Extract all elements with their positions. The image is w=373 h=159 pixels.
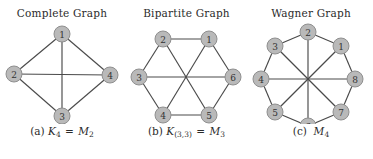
panel-caption-bipartite-graph: (b) K(3,3) = M3 [148,125,225,141]
panel-caption-complete-graph: (a) K4 = M2 [30,125,93,141]
panel-complete-graph: Complete Graph 1 [0,0,124,159]
node-label: 4 [258,75,264,85]
graph-canvas-wagner-graph: 2 1 8 7 6 [249,20,373,124]
panel-title-bipartite-graph: Bipartite Graph [143,7,230,19]
node-label: 5 [272,108,278,118]
node-label: 3 [272,42,278,52]
edge-3-4 [62,75,110,116]
node-label: 2 [305,28,311,38]
caption-equals: = [64,125,75,137]
node-1: 1 [201,31,217,47]
caption-symbol: M [314,125,325,137]
panel-title-complete-graph: Complete Graph [17,7,107,19]
caption-prefix: (c) [293,125,307,137]
panel-caption-wagner-graph: (c) M4 [293,125,329,141]
node-4: 4 [102,67,118,83]
graph-canvas-bipartite-graph: 1 2 3 4 5 [125,20,249,124]
caption-prefix: (b) [148,125,163,137]
graph-figure: Complete Graph 1 [0,0,373,159]
node-label: 3 [136,73,142,83]
node-label: 3 [59,112,65,122]
node-2: 2 [155,31,171,47]
edge-2-4 [14,74,110,75]
node-6: 6 [225,69,241,85]
node-label: 6 [305,122,311,125]
caption-symbol2-sub: 2 [89,130,94,139]
graph-svg-k33: 1 2 3 4 5 [125,20,249,124]
caption-symbol2: M [78,125,89,137]
caption-symbol-sub: 4 [324,130,329,139]
edge-2-3 [14,74,62,116]
graph-canvas-complete-graph: 1 2 3 4 [0,20,124,124]
node-label: 4 [107,71,113,81]
node-2: 2 [300,24,316,40]
node-3: 3 [131,69,147,85]
graph-svg-k4: 1 2 3 4 [0,20,124,124]
edges-k33 [139,39,233,115]
node-4: 4 [155,107,171,123]
panel-title-wagner-graph: Wagner Graph [271,7,351,19]
caption-symbol-sub: 4 [56,130,61,139]
caption-symbol2: M [209,125,220,137]
node-label: 2 [11,70,17,80]
node-5: 5 [201,107,217,123]
caption-symbol: K [48,125,56,137]
node-2: 2 [6,66,22,82]
caption-prefix: (a) [30,125,44,137]
node-3: 3 [54,108,70,124]
node-4: 4 [253,71,269,87]
node-1: 1 [333,38,349,54]
node-label: 1 [338,42,344,52]
node-label: 6 [230,73,236,83]
node-label: 2 [160,35,166,45]
caption-symbol: K [166,125,174,137]
caption-symbol-sub: (3,3) [174,130,192,139]
node-label: 8 [352,75,358,85]
node-6: 6 [300,118,316,124]
caption-equals: = [195,125,206,137]
edge-1-2 [14,34,62,74]
node-5: 5 [267,104,283,120]
panel-bipartite-graph: Bipartite Graph 1 [125,0,249,159]
edge-1-4 [62,34,110,75]
panel-wagner-graph: Wagner Graph [249,0,373,159]
node-label: 1 [206,35,212,45]
node-label: 1 [59,30,65,40]
caption-symbol2-sub: 3 [220,130,225,139]
node-label: 7 [338,108,344,118]
node-label: 4 [160,111,166,121]
node-1: 1 [54,26,70,42]
node-3: 3 [267,38,283,54]
edges-k4 [14,34,110,116]
node-label: 5 [206,111,212,121]
graph-svg-m4: 2 1 8 7 6 [249,20,373,124]
node-8: 8 [347,71,363,87]
node-7: 7 [333,104,349,120]
